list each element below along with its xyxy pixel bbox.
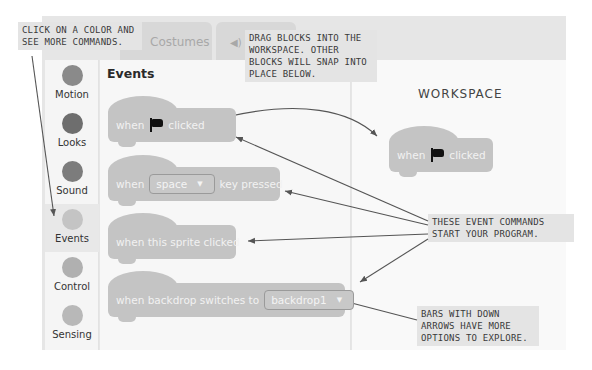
dropdown-arrow-icon: ▼ [337, 296, 342, 304]
when-key-pressed-block[interactable]: when space ▼ key pressed [108, 167, 280, 201]
category-sound[interactable]: Sound [45, 156, 99, 204]
green-flag-icon [430, 148, 444, 162]
category-label: Looks [58, 137, 87, 148]
palette-title: Events [107, 66, 154, 81]
when-flag-clicked-block[interactable]: when clicked [108, 108, 236, 142]
block-text: clicked [449, 149, 485, 161]
category-motion[interactable]: Motion [45, 60, 99, 108]
looks-color-dot[interactable] [62, 113, 83, 134]
callout-line: OPTIONS TO EXPLORE. [421, 332, 535, 344]
callout-drag: DRAG BLOCKS INTO THE WORKSPACE. OTHER BL… [245, 30, 377, 82]
category-label: Events [55, 233, 89, 244]
category-events[interactable]: Events [45, 204, 99, 252]
dropdown-value: backdrop1 [271, 294, 326, 306]
motion-color-dot[interactable] [62, 65, 83, 86]
when-backdrop-switches-block[interactable]: when backdrop switches to backdrop1 ▼ [108, 283, 345, 317]
green-flag-icon [149, 118, 163, 132]
callout-category: CLICK ON A COLOR AND SEE MORE COMMANDS. [18, 22, 142, 50]
block-text: when [397, 149, 425, 161]
block-text: key pressed [220, 178, 283, 190]
callout-event-commands: THESE EVENT COMMANDS START YOUR PROGRAM. [428, 214, 574, 242]
sound-color-dot[interactable] [62, 161, 83, 182]
block-text: when this sprite clicked [116, 236, 240, 248]
callout-line: DRAG BLOCKS INTO THE [249, 32, 373, 44]
category-label: Control [54, 281, 90, 292]
dropdown-value: space [156, 178, 187, 190]
key-dropdown[interactable]: space ▼ [149, 174, 214, 194]
speaker-icon: ◀) [230, 37, 242, 48]
callout-dropdowns: BARS WITH DOWN ARROWS HAVE MORE OPTIONS … [417, 306, 539, 346]
category-sensing[interactable]: Sensing [45, 300, 99, 348]
control-color-dot[interactable] [62, 257, 83, 278]
tab-costumes-label: Costumes [150, 35, 210, 49]
block-text: when [116, 119, 144, 131]
callout-line: SEE MORE COMMANDS. [22, 36, 138, 48]
when-sprite-clicked-block[interactable]: when this sprite clicked [108, 225, 236, 259]
sensing-color-dot[interactable] [62, 305, 83, 326]
category-sidebar: Motion Looks Sound Events Control Sensin… [45, 60, 99, 350]
dropdown-arrow-icon: ▼ [197, 180, 202, 188]
category-label: Sound [56, 185, 88, 196]
callout-line: ARROWS HAVE MORE [421, 320, 535, 332]
callout-line: WORKSPACE. OTHER [249, 44, 373, 56]
callout-line: BLOCKS WILL SNAP INTO [249, 56, 373, 68]
callout-line: PLACE BELOW. [249, 68, 373, 80]
category-label: Sensing [52, 329, 92, 340]
category-label: Motion [55, 89, 89, 100]
callout-line: BARS WITH DOWN [421, 308, 535, 320]
block-text: when [116, 178, 144, 190]
category-looks[interactable]: Looks [45, 108, 99, 156]
workspace-when-flag-clicked-block[interactable]: when clicked [389, 138, 493, 172]
block-text: clicked [168, 119, 204, 131]
events-color-dot[interactable] [62, 209, 83, 230]
callout-line: CLICK ON A COLOR AND [22, 24, 138, 36]
backdrop-dropdown[interactable]: backdrop1 ▼ [264, 290, 354, 310]
callout-line: START YOUR PROGRAM. [432, 228, 570, 240]
category-control[interactable]: Control [45, 252, 99, 300]
callout-line: THESE EVENT COMMANDS [432, 216, 570, 228]
block-text: when backdrop switches to [116, 294, 259, 306]
workspace-label: WORKSPACE [418, 87, 503, 101]
